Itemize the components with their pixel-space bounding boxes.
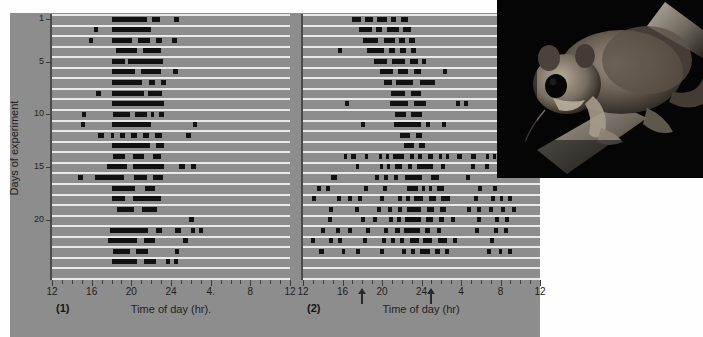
activity-bout-bar	[161, 80, 166, 85]
activity-bout-bar	[379, 154, 382, 159]
x-tick-minor	[62, 280, 63, 284]
x-tick-minor	[323, 280, 324, 284]
activity-bout-bar	[388, 207, 392, 212]
activity-bout-bar	[401, 17, 408, 22]
activity-bout-bar	[364, 186, 368, 191]
activity-bout-bar	[138, 38, 150, 43]
activity-bout-bar	[377, 17, 387, 22]
activity-bout-bar	[406, 196, 410, 201]
x-tick-minor	[431, 280, 432, 284]
x-tick-label: 24	[416, 286, 427, 297]
activity-bout-bar	[156, 228, 162, 233]
x-tick-minor	[280, 280, 281, 284]
activity-bout-bar	[414, 101, 427, 106]
activity-bout-bar	[407, 186, 418, 191]
activity-bout-bar	[112, 186, 136, 191]
activity-bout-bar	[112, 143, 151, 148]
activity-bout-bar	[429, 196, 436, 201]
activity-bout-bar	[143, 133, 149, 138]
activity-bout-bar	[113, 112, 130, 117]
activity-bout-bar	[400, 48, 406, 53]
y-tick	[46, 114, 51, 115]
activity-bout-bar	[153, 154, 161, 159]
activity-bout-bar	[491, 196, 495, 201]
activity-bout-bar	[392, 59, 405, 64]
panel-2-number: (2)	[307, 302, 320, 314]
x-tick-minor	[240, 280, 241, 284]
x-tick-minor	[231, 280, 232, 284]
activity-bout-bar	[156, 38, 162, 43]
activity-bout-bar	[326, 186, 330, 191]
activity-bout-bar	[422, 59, 427, 64]
x-tick-label: 8	[498, 286, 504, 297]
activity-bout-bar	[486, 154, 489, 159]
activity-bout-bar	[405, 217, 421, 222]
activity-bout-bar	[451, 217, 455, 222]
x-tick-minor	[121, 280, 122, 284]
activity-bout-bar	[152, 17, 160, 22]
primate-illustration	[497, 0, 703, 178]
activity-bout-bar	[148, 91, 162, 96]
x-tick-minor	[510, 280, 511, 284]
y-tick-label: 10	[22, 108, 44, 118]
activity-bout-bar	[429, 186, 432, 191]
activity-bout-bar	[417, 164, 434, 169]
x-tick-minor	[372, 280, 373, 284]
day-row-line	[52, 267, 290, 269]
x-tick-minor	[191, 280, 192, 284]
activity-bout-bar	[384, 228, 388, 233]
activity-bout-bar	[409, 38, 415, 43]
activity-bout-bar	[505, 217, 509, 222]
x-tick-minor	[102, 280, 103, 284]
activity-bout-bar	[363, 38, 378, 43]
activity-bout-bar	[393, 154, 404, 159]
activity-bout-bar	[431, 175, 439, 180]
activity-bout-bar	[338, 238, 342, 243]
activity-bout-bar	[149, 80, 155, 85]
activity-bout-bar	[141, 69, 161, 74]
day-row-line	[303, 215, 540, 217]
activity-bout-bar	[344, 154, 347, 159]
arrow-stem	[361, 292, 363, 304]
activity-bout-bar	[365, 17, 373, 22]
activity-bout-bar	[359, 27, 372, 32]
activity-bout-bar	[405, 175, 423, 180]
activity-bout-bar	[367, 48, 384, 53]
activity-bout-bar	[499, 249, 503, 254]
activity-bout-bar	[113, 249, 130, 254]
activity-bout-bar	[411, 112, 423, 117]
activity-bout-bar	[199, 228, 203, 233]
activity-bout-bar	[376, 27, 382, 32]
y-tick-label: 15	[22, 161, 44, 171]
x-tick-minor	[313, 280, 314, 284]
activity-bout-bar	[453, 238, 457, 243]
activity-bout-bar	[407, 207, 421, 212]
activity-bout-bar	[191, 228, 195, 233]
activity-bout-bar	[133, 196, 161, 201]
activity-bout-bar	[342, 249, 346, 254]
x-tick-minor	[72, 280, 73, 284]
activity-bout-bar	[112, 69, 135, 74]
activity-bout-bar	[317, 186, 321, 191]
activity-bout-bar	[112, 17, 148, 22]
actogram-panel-1: 15101520 121620244.812	[52, 14, 290, 278]
x-tick-label: 16	[337, 286, 348, 297]
activity-bout-bar	[384, 38, 395, 43]
day-row-line	[303, 267, 540, 269]
activity-bout-bar	[82, 112, 86, 117]
activity-bout-bar	[471, 154, 476, 159]
activity-bout-bar	[89, 38, 93, 43]
activity-bout-bar	[477, 207, 481, 212]
activity-bout-bar	[416, 133, 423, 138]
activity-bout-bar	[175, 228, 181, 233]
x-tick-minor	[392, 280, 393, 284]
activity-bout-bar	[439, 154, 442, 159]
day-row-line	[52, 56, 290, 58]
panel-1-day-rows	[52, 14, 290, 278]
activity-bout-bar	[397, 217, 401, 222]
activity-bout-bar	[174, 259, 178, 264]
activity-bout-bar	[345, 101, 349, 106]
activity-bout-bar	[193, 122, 197, 127]
activity-bout-bar	[439, 217, 444, 222]
activity-bout-bar	[427, 207, 434, 212]
